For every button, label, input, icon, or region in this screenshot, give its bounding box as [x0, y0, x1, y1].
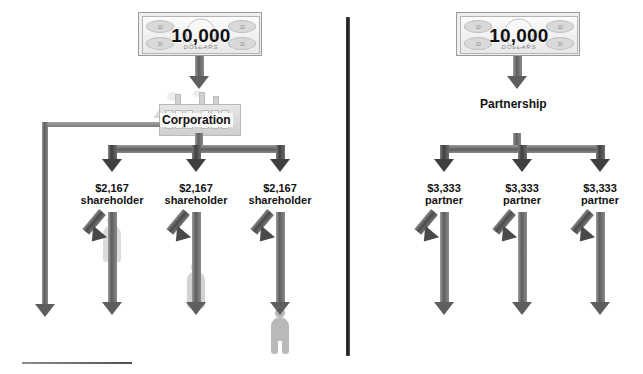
- shareholder-3-label: $2,167 shareholder: [244, 182, 316, 206]
- shareholder-3-amount: $2,167: [244, 182, 316, 194]
- arrow-shaft-corp-to-irs: [42, 122, 48, 307]
- partner-1-label: $3,333 partner: [408, 182, 480, 206]
- arrow-head-corp-to-irs: [35, 304, 55, 317]
- arrow-stub-partnership-down: [513, 133, 521, 145]
- money-note-right: 10 10 10 10 10,000 DOLLARS: [456, 12, 580, 56]
- note-corner-icon: 10: [464, 37, 492, 50]
- panel-divider: [346, 17, 350, 356]
- arrow-head-shareholder-1-to-irs: [102, 302, 122, 315]
- money-note-subtext: DOLLARS: [183, 44, 218, 50]
- money-note-inner: 10 10 10 10 10,000 DOLLARS: [142, 16, 260, 54]
- shareholder-3-role: shareholder: [244, 194, 316, 206]
- note-corner-icon: 10: [146, 20, 174, 33]
- arrow-head-partner-3-to-irs: [590, 302, 610, 315]
- arrow-shaft-partner-2-to-irs: [518, 212, 527, 304]
- arrow-head-shareholder-2: [186, 159, 206, 172]
- partner-1-amount: $3,333: [408, 182, 480, 194]
- arrow-shaft-note-to-partnership: [513, 56, 522, 78]
- money-note-inner: 10 10 10 10 10,000 DOLLARS: [460, 16, 578, 54]
- partner-1-role: partner: [408, 194, 480, 206]
- partner-2-amount: $3,333: [486, 182, 558, 194]
- partner-2-label: $3,333 partner: [486, 182, 558, 206]
- arrow-shaft-shareholder-1-to-irs: [108, 212, 117, 304]
- arrow-head-shareholder-1: [102, 159, 122, 172]
- partnership-label: Partnership: [478, 97, 549, 111]
- shareholder-1-role: shareholder: [76, 194, 148, 206]
- diagram-canvas: 10 10 10 10 10,000 DOLLARS Corporation: [0, 0, 643, 374]
- arrow-shaft-partner-1-to-irs: [440, 212, 449, 304]
- shareholder-1-label: $2,167 shareholder: [76, 182, 148, 206]
- partner-2-role: partner: [486, 194, 558, 206]
- arrow-head-partner-3: [590, 159, 610, 172]
- note-corner-icon: 10: [146, 37, 174, 50]
- arrow-head-partner-2: [512, 159, 532, 172]
- arrow-head-shareholder-3: [270, 159, 290, 172]
- note-corner-icon: 10: [546, 37, 574, 50]
- money-note-left: 10 10 10 10 10,000 DOLLARS: [138, 12, 262, 56]
- arrow-head-note-to-partnership: [507, 76, 527, 89]
- arrow-shaft-shareholder-3-to-irs: [276, 212, 285, 304]
- arrow-bus-corp-to-irs: [42, 122, 160, 127]
- arrow-head-partner-1-to-irs: [434, 302, 454, 315]
- arrow-shaft-note-to-corp: [195, 56, 204, 78]
- shareholder-2-label: $2,167 shareholder: [160, 182, 232, 206]
- money-note-subtext: DOLLARS: [501, 44, 536, 50]
- partner-3-amount: $3,333: [564, 182, 636, 194]
- money-note-amount: 10,000: [171, 26, 230, 45]
- arrow-stub-corp-down: [195, 133, 203, 145]
- shareholder-1-amount: $2,167: [76, 182, 148, 194]
- arrow-shaft-shareholder-2-to-irs: [192, 212, 201, 304]
- shareholder-2-role: shareholder: [160, 194, 232, 206]
- bottom-rule: [22, 362, 132, 364]
- arrow-head-note-to-corp: [189, 76, 209, 89]
- corporation-label: Corporation: [160, 113, 233, 127]
- arrow-shaft-partner-3-to-irs: [596, 212, 605, 304]
- arrow-head-partner-2-to-irs: [512, 302, 532, 315]
- arrow-head-shareholder-2-to-irs: [186, 302, 206, 315]
- arrow-head-partner-1: [434, 159, 454, 172]
- note-corner-icon: 10: [228, 20, 256, 33]
- shareholder-2-amount: $2,167: [160, 182, 232, 194]
- partner-3-label: $3,333 partner: [564, 182, 636, 206]
- note-corner-icon: 10: [464, 20, 492, 33]
- arrow-head-shareholder-3-to-irs: [270, 302, 290, 315]
- note-corner-icon: 10: [546, 20, 574, 33]
- partner-3-role: partner: [564, 194, 636, 206]
- money-note-amount: 10,000: [489, 26, 548, 45]
- note-corner-icon: 10: [228, 37, 256, 50]
